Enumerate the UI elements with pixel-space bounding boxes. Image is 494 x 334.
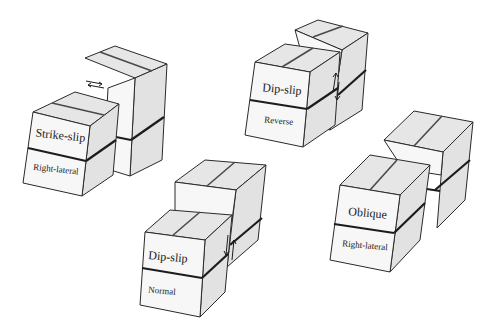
strike-slip-block-model: Strike-slip Right-lateral: [23, 46, 167, 196]
strike-slip-front-block: [23, 92, 119, 196]
dip-slip-reverse-block-model: Dip-slip Reverse: [245, 20, 368, 147]
oblique-block-model: Oblique Right-lateral: [330, 111, 473, 272]
right-lateral-arrows-icon: [86, 81, 104, 88]
fault-types-diagram: Strike-slip Right-lateral Dip-slip: [0, 0, 494, 334]
dip-slip-normal-block-model: Dip-slip Normal: [140, 160, 266, 317]
